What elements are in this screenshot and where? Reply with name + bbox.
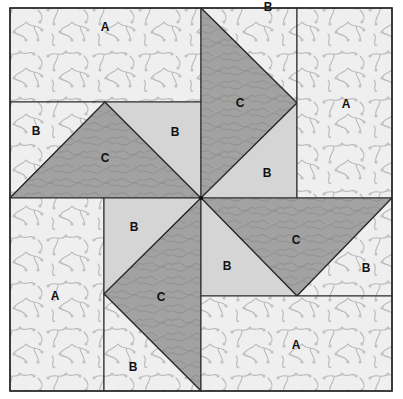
label-tl-b2: B (171, 125, 180, 139)
label-bl-b1: B (130, 220, 139, 234)
label-tl-a: A (101, 20, 110, 34)
center-point (199, 196, 203, 200)
label-bl-b2: B (129, 360, 138, 374)
label-tr-c: C (236, 96, 245, 110)
label-tr-a: A (342, 97, 351, 111)
label-tl-b1: B (32, 124, 41, 138)
quilt-block-diagram: ABCBBCBAABCBCBBA (0, 0, 403, 399)
label-tr-b1: B (264, 0, 273, 14)
label-bl-a: A (51, 289, 60, 303)
label-br-c: C (292, 233, 301, 247)
label-tr-b2: B (263, 166, 272, 180)
label-bl-c: C (157, 290, 166, 304)
label-br-b1: B (223, 259, 232, 273)
label-tl-c: C (101, 151, 110, 165)
label-br-a: A (292, 338, 301, 352)
label-br-b2: B (362, 261, 371, 275)
